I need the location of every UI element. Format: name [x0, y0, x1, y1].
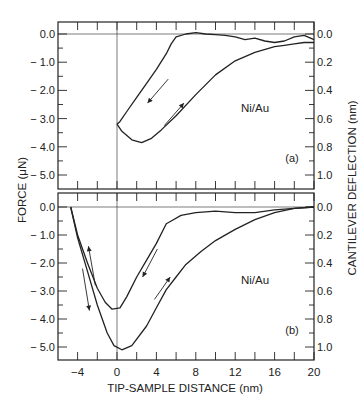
- panel-b: 0.0− 1.0− 2.0− 3.0− 4.0− 5.00.00.20.40.6…: [30, 193, 332, 360]
- x-tick-label: −4: [71, 366, 85, 378]
- left-y-tick-label: 0.0: [40, 28, 55, 40]
- left-y-tick-label: − 3.0: [30, 113, 55, 125]
- right-y-tick-label: 1.0: [317, 341, 332, 353]
- left-y-tick-label: − 5.0: [30, 169, 55, 181]
- right-y-tick-label: 1.0: [317, 169, 332, 181]
- x-tick-label: 0: [114, 366, 120, 378]
- left-y-tick-label: − 4.0: [30, 313, 55, 325]
- right-y-tick-label: 0.0: [317, 201, 332, 213]
- curve-approach: [117, 33, 314, 125]
- right-y-tick-label: 0.6: [317, 113, 332, 125]
- x-tick-label: 4: [153, 366, 160, 378]
- approach-down-arrow: [83, 269, 92, 311]
- left-y-tick-label: − 2.0: [30, 84, 55, 96]
- x-tick-label: 12: [229, 366, 242, 378]
- left-y-tick-label: − 5.0: [30, 341, 55, 353]
- left-y-tick-label: − 3.0: [30, 285, 55, 297]
- right-y-tick-label: 0.2: [317, 56, 332, 68]
- sample-annotation: Ni/Au: [241, 102, 269, 114]
- x-tick-label: 16: [268, 366, 281, 378]
- panel-a: 0.0− 1.0− 2.0− 3.0− 4.0− 5.00.00.20.40.6…: [30, 22, 332, 189]
- x-tick-label: 8: [193, 366, 199, 378]
- force-curve-figure: 0.0− 1.0− 2.0− 3.0− 4.0− 5.00.00.20.40.6…: [0, 0, 363, 412]
- right-y-tick-label: 0.8: [317, 313, 332, 325]
- left-y-tick-label: − 4.0: [30, 141, 55, 153]
- right-y-tick-label: 0.4: [317, 257, 332, 269]
- curve-retract: [71, 207, 314, 350]
- left-y-tick-label: − 1.0: [30, 229, 55, 241]
- right-y-tick-label: 0.8: [317, 141, 332, 153]
- right-y-axis-label: CANTILEVER DEFLECTION (nm): [346, 100, 358, 275]
- x-tick-label: 20: [308, 366, 321, 378]
- curve-retract: [117, 43, 314, 143]
- plot-frame: [58, 193, 314, 360]
- approach-direction-arrow: [148, 79, 169, 103]
- right-y-tick-label: 0.0: [317, 28, 332, 40]
- panel-label: (a): [285, 152, 298, 164]
- right-y-tick-label: 0.4: [317, 84, 332, 96]
- left-y-tick-label: − 2.0: [30, 257, 55, 269]
- x-axis-label: TIP-SAMPLE DISTANCE (nm): [107, 382, 263, 394]
- right-y-tick-label: 0.2: [317, 229, 332, 241]
- left-y-tick-label: 0.0: [40, 201, 55, 213]
- right-y-tick-label: 0.6: [317, 285, 332, 297]
- panel-label: (b): [285, 324, 298, 336]
- sample-annotation: Ni/Au: [241, 274, 269, 286]
- left-y-axis-label: FORCE (μN): [16, 157, 28, 223]
- retract-direction-arrow: [164, 103, 184, 126]
- left-y-tick-label: − 1.0: [30, 56, 55, 68]
- plot-panels: 0.0− 1.0− 2.0− 3.0− 4.0− 5.00.00.20.40.6…: [30, 22, 332, 378]
